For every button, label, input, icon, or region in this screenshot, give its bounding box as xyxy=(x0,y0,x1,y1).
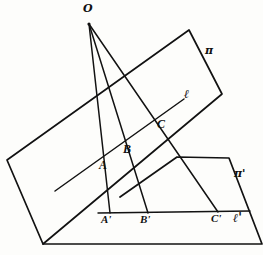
label-point-b-prime: B' xyxy=(140,214,150,225)
plane-pi-prime-outline xyxy=(43,157,262,244)
label-point-o: O xyxy=(83,3,93,14)
ray-o-to-c-prime xyxy=(89,24,218,212)
ray-o-to-b-prime xyxy=(89,24,148,213)
point-o-dot xyxy=(87,22,90,25)
label-line-l-prime: ℓ' xyxy=(233,212,242,224)
label-point-a-prime: A' xyxy=(101,214,111,225)
label-plane-pi-prime: π' xyxy=(234,168,245,179)
figure-canvas xyxy=(0,0,263,255)
label-plane-pi: π xyxy=(205,45,213,56)
geometry-figure: O π π' ℓ ℓ' A B C A' B' C' xyxy=(0,0,263,255)
label-point-c-prime: C' xyxy=(211,213,221,224)
label-point-c: C xyxy=(157,118,165,130)
label-point-a: A xyxy=(99,159,107,171)
label-point-b: B xyxy=(123,143,131,155)
ray-o-to-a-prime xyxy=(89,24,110,213)
label-line-l: ℓ xyxy=(184,88,189,100)
line-l-prime xyxy=(98,211,250,213)
